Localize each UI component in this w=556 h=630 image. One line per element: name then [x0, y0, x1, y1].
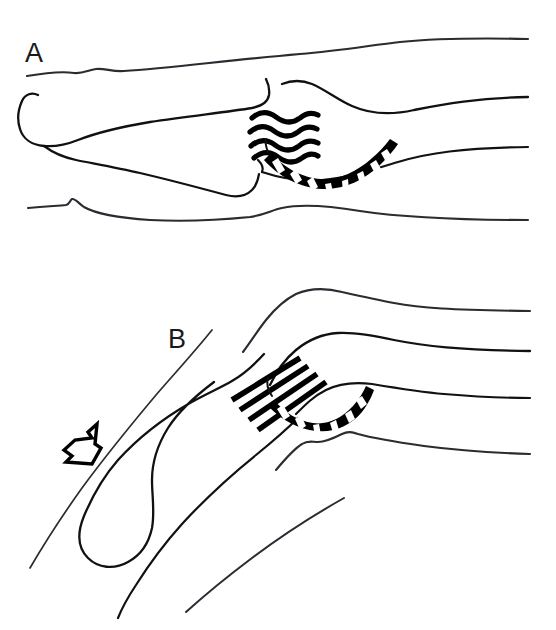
capsule-stripe-gap-5: [342, 179, 349, 192]
figure-caption: [0, 616, 556, 630]
panel-label-b: B: [168, 324, 187, 354]
figure-root: A: [0, 0, 556, 630]
canvas-background: [0, 0, 556, 630]
illustration-canvas: A: [0, 0, 556, 630]
panel-label-a: A: [25, 38, 44, 68]
